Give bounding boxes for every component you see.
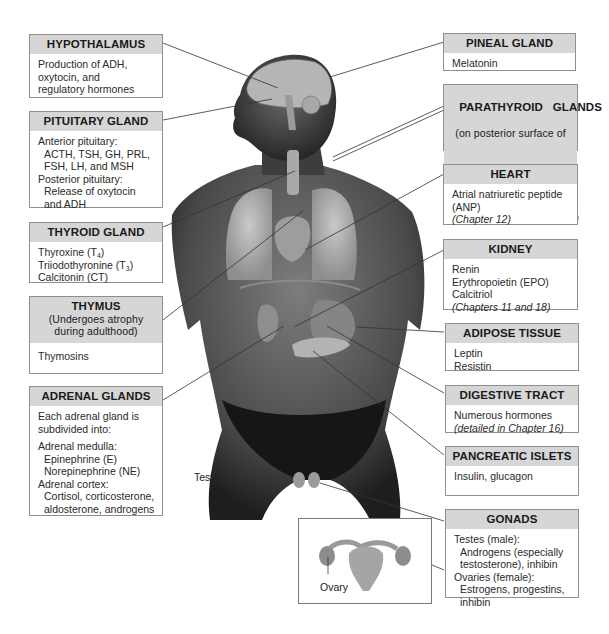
box-line: oxytocin, and (38, 71, 156, 84)
box-line: ACTH, TSH, GH, PRL, (38, 148, 156, 161)
box-line: Cortisol, corticosterone, (38, 490, 156, 503)
box-kidney: KIDNEY Renin Erythropoietin (EPO) Calcit… (443, 239, 578, 310)
uterus-illustration (299, 519, 431, 603)
box-line: aldosterone, androgens (38, 503, 156, 516)
box-line: Thyroxine (T4) (38, 246, 156, 259)
box-line: Each adrenal gland is (38, 410, 156, 423)
box-title: DIGESTIVE TRACT (446, 386, 578, 405)
box-adipose-tissue: ADIPOSE TISSUE Leptin Resistin (445, 323, 579, 371)
box-title: ADIPOSE TISSUE (446, 324, 578, 343)
box-line: subdivided into: (38, 423, 156, 436)
box-line: Atrial natriuretic peptide (452, 188, 571, 201)
box-pituitary-gland: PITUITARY GLAND Anterior pituitary: ACTH… (29, 111, 163, 208)
box-parathyroid-glands: PARATHYROID GLANDS (on posterior surface… (443, 84, 578, 151)
testis-label: Testis (194, 471, 221, 483)
box-title: ADRENAL GLANDS (30, 387, 162, 406)
box-line: (Chapters 11 and 18) (452, 301, 571, 314)
ovary-inset: Ovary (298, 518, 432, 604)
box-line: Leptin (454, 347, 572, 360)
box-line: Androgens (especially (454, 546, 572, 559)
box-line: Posterior pituitary: (38, 173, 156, 186)
box-line: Estrogens, progestins, (454, 583, 572, 596)
box-line: Adrenal medulla: (38, 440, 156, 453)
box-line: Adrenal cortex: (38, 478, 156, 491)
box-line: Epinephrine (E) (38, 453, 156, 466)
box-line: (Chapter 12) (452, 213, 571, 226)
box-title: PINEAL GLAND (444, 34, 575, 53)
box-line: Renin (452, 263, 571, 276)
ovary-label: Ovary (320, 581, 348, 593)
box-line: Ovaries (female): (454, 571, 572, 584)
box-title: THYROID GLAND (30, 223, 162, 242)
box-line: Calcitriol (452, 288, 571, 301)
box-line: (ANP) (452, 201, 571, 214)
box-pineal-gland: PINEAL GLAND Melatonin (443, 33, 576, 71)
box-line: Production of ADH, (38, 58, 156, 71)
box-line: FSH, LH, and MSH (38, 160, 156, 173)
box-line: testosterone), inhibin (454, 558, 572, 571)
box-line: Norepinephrine (NE) (38, 465, 156, 478)
box-line: and ADH (38, 198, 156, 211)
box-line: regulatory hormones (38, 83, 156, 96)
box-title: KIDNEY (444, 240, 577, 259)
box-title: THYMUS (Undergoes atrophy during adultho… (30, 297, 162, 343)
box-digestive-tract: DIGESTIVE TRACT Numerous hormones (detai… (445, 385, 579, 433)
box-line: inhibin (454, 596, 572, 609)
box-line: Thymosins (38, 350, 156, 363)
box-line: Calcitonin (CT) (38, 271, 156, 284)
box-line: Resistin (454, 360, 572, 373)
box-title: HEART (444, 165, 577, 184)
box-pancreatic-islets: PANCREATIC ISLETS Insulin, glucagon (445, 446, 579, 496)
box-line: Insulin, glucagon (454, 470, 572, 483)
box-adrenal-glands: ADRENAL GLANDS Each adrenal gland is sub… (29, 386, 163, 516)
box-heart: HEART Atrial natriuretic peptide (ANP) (… (443, 164, 578, 225)
box-line: (detailed in Chapter 16) (454, 422, 572, 435)
box-line: Numerous hormones (454, 409, 572, 422)
box-line: Erythropoietin (EPO) (452, 276, 571, 289)
box-title: GONADS (446, 510, 578, 529)
box-title: PANCREATIC ISLETS (446, 447, 578, 466)
box-line: Testes (male): (454, 533, 572, 546)
box-line: Triiodothyronine (T3) (38, 259, 156, 272)
box-line: Release of oxytocin (38, 185, 156, 198)
box-gonads: GONADS Testes (male): Androgens (especia… (445, 509, 579, 598)
box-thyroid-gland: THYROID GLAND Thyroxine (T4) Triiodothyr… (29, 222, 163, 283)
box-hypothalamus: HYPOTHALAMUS Production of ADH, oxytocin… (29, 34, 163, 98)
box-title: HYPOTHALAMUS (30, 35, 162, 54)
box-title: PITUITARY GLAND (30, 112, 162, 131)
box-thymus: THYMUS (Undergoes atrophy during adultho… (29, 296, 163, 374)
box-line: Melatonin (452, 57, 569, 70)
box-line: Anterior pituitary: (38, 135, 156, 148)
